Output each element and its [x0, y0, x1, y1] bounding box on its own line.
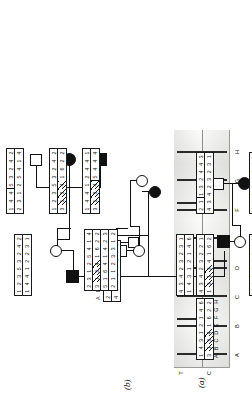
haplotype-allele: 4 — [91, 165, 99, 173]
haplotype-row: 14412231 — [23, 235, 31, 295]
gel-lane-label-A: A — [234, 349, 240, 361]
haplotype-allele: 4 — [177, 288, 184, 296]
haplotype-allele: 4 — [83, 157, 90, 165]
haplotype-row: 31345444 — [91, 149, 99, 213]
pedigree-symbol-male-affected[interactable] — [66, 270, 79, 283]
haplotype-allele: 3 — [197, 183, 204, 191]
haplotype-allele: 3 — [205, 265, 213, 273]
haplotype-allele: 5 — [7, 181, 14, 189]
marker-label-H: H — [213, 298, 220, 306]
haplotype-bar: 2113244343423231 — [196, 152, 214, 214]
connector — [142, 191, 149, 192]
figure-canvas: (a) T C A B C D E F G H (b) — [0, 0, 252, 394]
pedigree-symbol-female-unaffected[interactable] — [234, 236, 246, 248]
haplotype-allele: 4 — [197, 168, 204, 176]
haplotype-allele: 4 — [15, 165, 23, 173]
pedigree-symbol-female-unaffected[interactable] — [50, 245, 62, 257]
haplotype-allele: 2 — [109, 260, 117, 268]
haplotype-allele: 4 — [7, 189, 14, 197]
haplotype-row: 14453242 — [7, 149, 15, 213]
haplotype-allele: 2 — [197, 176, 204, 184]
pedigree-symbol-female-unaffected[interactable] — [136, 175, 148, 187]
haplotype-allele: 1 — [109, 238, 117, 246]
haplotype-allele: 4 — [197, 288, 204, 296]
haplotype-allele: 1 — [109, 268, 117, 276]
haplotype-allele: 1 — [7, 205, 14, 213]
haplotype-allele: 2 — [85, 260, 92, 268]
marker-label-B: B — [213, 345, 220, 353]
haplotype-bar: 1235324214412231 — [14, 234, 32, 296]
marker-label-G: G — [213, 306, 220, 314]
haplotype-allele: 3 — [197, 258, 204, 266]
haplotype-allele: 4 — [112, 294, 120, 302]
haplotype-allele: 3 — [15, 197, 23, 205]
haplotype-allele: 2 — [205, 168, 213, 176]
haplotype-allele: 2 — [85, 283, 92, 291]
haplotype-allele: 4 — [250, 161, 252, 169]
haplotype-allele: 4 — [23, 273, 31, 281]
haplotype-allele: 2 — [104, 294, 111, 302]
haplotype-row: 14312146 — [185, 235, 193, 295]
haplotype-allele: 1 — [15, 189, 23, 197]
marker-label-A: A — [95, 294, 102, 302]
haplotype-allele: 5 — [85, 253, 92, 261]
connector — [224, 251, 225, 277]
haplotype-allele: 5 — [101, 283, 108, 291]
pedigree-symbol-male-affected[interactable] — [217, 235, 230, 248]
haplotype-allele: 1 — [109, 275, 117, 283]
haplotype-allele: 3 — [15, 258, 22, 266]
gel-lane-label-C: C — [234, 291, 240, 303]
haplotype-allele: 3 — [50, 189, 57, 197]
haplotype-allele: 4 — [101, 260, 108, 268]
connector — [116, 235, 149, 236]
haplotype-allele: 3 — [205, 176, 213, 184]
haplotype-allele: 2 — [177, 250, 184, 258]
haplotype-allele: 2 — [7, 165, 14, 173]
haplotype-allele: 3 — [197, 280, 204, 288]
panel-a-label: (a) — [196, 378, 206, 389]
haplotype-allele: 3 — [185, 273, 193, 281]
haplotype-allele: 4 — [85, 230, 92, 238]
haplotype-row: 12353242 — [50, 149, 58, 213]
haplotype-allele: 3 — [177, 258, 184, 266]
pedigree-symbol-female-affected[interactable] — [149, 186, 161, 198]
connector — [232, 225, 241, 226]
haplotype-allele: 3 — [109, 245, 117, 253]
gel-lane-label-H: H — [234, 146, 240, 158]
haplotype-allele: 4 — [15, 149, 23, 157]
haplotype-allele: 2 — [250, 288, 252, 296]
haplotype-allele: 4 — [205, 206, 213, 214]
haplotype-allele: 2 — [50, 197, 57, 205]
haplotype-allele: 3 — [23, 243, 31, 251]
haplotype-row: 43423231 — [205, 153, 213, 213]
haplotype-allele: 4 — [83, 165, 90, 173]
haplotype-allele: 1 — [15, 157, 23, 165]
haplotype-allele: 4 — [85, 245, 92, 253]
haplotype-row: 14312146 — [197, 299, 205, 359]
haplotype-allele: 2 — [205, 307, 213, 315]
haplotype-allele: 6 — [58, 165, 66, 173]
haplotype-allele: 1 — [197, 198, 204, 206]
pedigree-symbol-female-unaffected[interactable] — [133, 245, 145, 257]
haplotype-allele: 4 — [197, 161, 204, 169]
haplotype-allele: 1 — [101, 253, 108, 261]
haplotype-allele: 2 — [185, 258, 193, 266]
haplotype-row: 23125414 — [15, 149, 23, 213]
haplotype-allele: 5 — [50, 181, 57, 189]
haplotype-allele: 1 — [205, 153, 213, 161]
haplotype-allele: 1 — [250, 280, 252, 288]
haplotype-allele: 4 — [91, 149, 99, 157]
haplotype-allele: 3 — [101, 230, 108, 238]
gel-lane-label-F: F — [234, 204, 240, 216]
haplotype-allele: 2 — [101, 238, 108, 246]
haplotype-allele: 2 — [23, 250, 31, 258]
haplotype-allele: 2 — [205, 299, 213, 307]
haplotype-allele: 3 — [205, 337, 213, 345]
haplotype-allele: 1 — [83, 205, 90, 213]
haplotype-allele: 1 — [177, 235, 184, 243]
haplotype-allele: 1 — [205, 322, 213, 330]
haplotype-allele: 1 — [185, 288, 193, 296]
pedigree-symbol-male-unaffected[interactable] — [30, 154, 42, 166]
panel-b-label: (b) — [122, 380, 132, 391]
haplotype-allele: 4 — [83, 197, 90, 205]
